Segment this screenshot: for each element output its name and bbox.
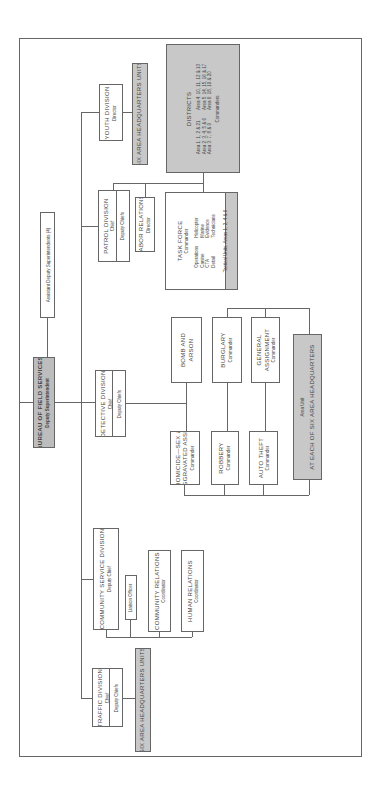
task-unit: Marine — [199, 214, 205, 238]
community-relations-box: COMMUNITY RELATIONS Coordinator — [148, 550, 171, 632]
burglary-title: BURGLARY — [220, 332, 228, 367]
bureau-subtitle: Deputy Superintendent — [45, 378, 51, 428]
connector — [263, 485, 264, 495]
general-title2: ASSIGNMENT — [263, 329, 271, 372]
connector — [186, 383, 187, 431]
general-assignment-box: GENERAL ASSIGNMENT Commander — [251, 317, 280, 383]
connector — [130, 620, 131, 637]
connector — [81, 698, 92, 699]
task-force-title: TASK FORCE — [176, 221, 184, 262]
connector — [145, 183, 146, 197]
task-force-subtitle: Commander — [183, 229, 189, 254]
connector — [159, 632, 160, 637]
connector — [192, 632, 193, 637]
connector — [309, 480, 310, 495]
connector — [113, 183, 203, 184]
assistant-box: Assistant Deputy Superintendents (4) — [40, 212, 55, 318]
community-service-box: COMMUNITY SERVICE DIVISION Deputy Chief — [93, 528, 119, 630]
bomb-title: BOMB AND — [179, 333, 187, 367]
six-area-hq-top-title: SIX AREA HEADQUARTERS UNITS — [136, 63, 144, 165]
connector — [55, 402, 95, 403]
homicide-subtitle: Commander — [190, 446, 196, 471]
task-force-box: TASK FORCE Commander Operations Helicopt… — [165, 192, 238, 290]
liaison-box: Liaison Officer — [125, 575, 137, 620]
six-area-hq-bottom-title: SIX AREA HEADQUARTERS UNITS — [139, 648, 147, 752]
youth-title: YOUTH DIVISION — [104, 86, 112, 139]
labor-box: LABOR RELATIONS Director — [135, 197, 155, 252]
area-unit-box: Area Unit AT EACH OF SIX AREA HEADQUARTE… — [293, 334, 322, 480]
connector — [184, 485, 185, 495]
connector — [47, 318, 48, 357]
homicide-box: HOMICIDE—SEX & AGGRAVATED ASSLT Commande… — [170, 431, 200, 485]
connector — [227, 308, 228, 317]
connector — [265, 308, 266, 317]
task-unit: Technicians — [210, 214, 216, 238]
connector — [224, 485, 225, 495]
general-subtitle: Commander — [270, 338, 276, 363]
patrol-box: PATROL DIVISION Chief Deputy Chiefs — [98, 190, 130, 262]
districts-box: DISTRICTS Area 1: 1, 2 & 21 Area 4: 10, … — [166, 44, 240, 173]
district-row: Area 6: 18, 19 & 20 — [207, 63, 213, 109]
detective-subtitle: Chief — [107, 398, 113, 409]
task-unit: Evidence — [204, 214, 210, 238]
task-unit: CTA — [204, 246, 210, 268]
bomb-arson-box: BOMB AND ARSON — [171, 317, 202, 383]
connector — [227, 383, 228, 431]
liaison-title: Liaison Officer — [128, 583, 134, 612]
six-area-hq-bottom: SIX AREA HEADQUARTERS UNITS — [135, 648, 151, 752]
bomb-title2: ARSON — [187, 339, 195, 362]
connector — [106, 637, 192, 638]
detective-box: DETECTIVE DIVISION Chief Deputy Chiefs — [95, 370, 126, 437]
task-unit: Canine — [199, 246, 205, 268]
connector — [106, 630, 107, 637]
human-relations-subtitle: Coordinator — [193, 579, 199, 603]
auto-theft-subtitle: Commander — [264, 446, 270, 471]
assistant-title: Assistant Deputy Superintendents (4) — [45, 228, 51, 303]
homicide-title: HOMICIDE—SEX & — [175, 431, 183, 485]
detective-title: DETECTIVE DIVISION — [99, 370, 107, 437]
traffic-box: TRAFFIC DIVISION Chief Deputy Chiefs — [92, 668, 123, 727]
connector — [123, 698, 135, 699]
traffic-title: TRAFFIC DIVISION — [96, 668, 104, 726]
connector — [126, 403, 186, 404]
six-area-hq-top: SIX AREA HEADQUARTERS UNITS — [132, 63, 148, 165]
connector — [20, 402, 33, 403]
area-unit-subtitle: Area Unit — [299, 398, 305, 417]
community-relations-subtitle: Coordinator — [160, 579, 166, 603]
robbery-subtitle: Commander — [226, 446, 232, 471]
homicide-title2: AGGRAVATED ASSLT — [182, 431, 190, 485]
traffic-subtitle: Chief — [104, 692, 110, 703]
robbery-title: ROBBERY — [218, 442, 226, 473]
community-relations-title: COMMUNITY RELATIONS — [153, 552, 161, 630]
labor-subtitle: Director — [146, 217, 152, 233]
district-row: Area 3: 7, 8 & 9 — [207, 118, 213, 154]
connector — [227, 308, 309, 309]
general-title: GENERAL — [255, 335, 263, 366]
bureau-box: BUREAU OF FIELD SERVICES Deputy Superint… — [33, 357, 55, 448]
connector — [81, 112, 99, 113]
patrol-subtitle: Chief — [110, 221, 116, 232]
labor-title: LABOR RELATIONS — [138, 197, 146, 252]
districts-footer: Commanders — [215, 95, 221, 122]
detective-sub2: Deputy Chiefs — [116, 389, 122, 417]
human-relations-box: HUMAN RELATIONS Coordinator — [181, 550, 204, 632]
connector — [265, 383, 266, 431]
connector — [113, 183, 114, 190]
auto-theft-title: AUTO THEFT — [257, 438, 265, 478]
task-unit: Detail — [210, 246, 216, 268]
area-unit-title: AT EACH OF SIX AREA HEADQUARTERS — [308, 344, 316, 469]
traffic-sub2: Deputy Chiefs — [113, 683, 119, 711]
districts-title: DISTRICTS — [186, 91, 194, 125]
task-unit: Helicopter — [193, 214, 199, 238]
robbery-box: ROBBERY Commander — [211, 431, 239, 485]
patrol-sub2: Deputy Chiefs — [120, 212, 126, 240]
patrol-title: PATROL DIVISION — [103, 198, 111, 253]
connector — [184, 495, 309, 496]
auto-theft-box: AUTO THEFT Commander — [249, 431, 278, 485]
connector — [81, 226, 98, 227]
youth-box: YOUTH DIVISION Director — [99, 84, 123, 141]
task-force-footer: Tactical Units, Areas 1, 2, 4 & 6 — [222, 210, 228, 272]
burglary-box: BURGLARY Commander — [212, 317, 242, 383]
task-unit: Operations — [193, 246, 199, 268]
connector — [81, 112, 82, 698]
